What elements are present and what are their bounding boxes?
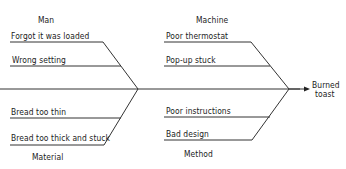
cause-bread-too-thin: Bread too thin xyxy=(11,107,66,117)
cause-popup-stuck: Pop-up stuck xyxy=(166,55,216,65)
cause-bad-design: Bad design xyxy=(166,129,209,139)
arrow-icon xyxy=(289,87,310,92)
cause-bread-too-thick: Bread too thick and stuck xyxy=(11,133,110,143)
cause-forgot-loaded: Forgot it was loaded xyxy=(11,31,89,41)
category-man-label: Man xyxy=(38,15,54,25)
category-method-label: Method xyxy=(184,149,213,159)
effect-label-line2: toast xyxy=(315,89,335,99)
cause-poor-instructions: Poor instructions xyxy=(166,106,231,116)
category-material-label: Material xyxy=(32,152,63,162)
cause-wrong-setting: Wrong setting xyxy=(12,55,66,65)
category-machine-label: Machine xyxy=(196,15,228,25)
cause-poor-thermostat: Poor thermostat xyxy=(166,31,228,41)
fishbone-lines xyxy=(0,0,346,169)
